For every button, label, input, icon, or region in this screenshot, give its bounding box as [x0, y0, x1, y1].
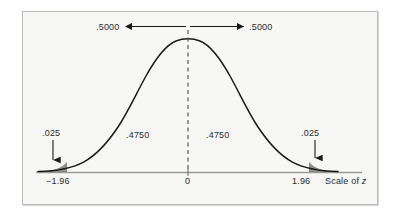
- left-tail-area-label: .025: [42, 128, 60, 138]
- x-tick-label-positive: 1.96: [292, 176, 310, 186]
- left-half-probability-label: .5000: [96, 22, 120, 32]
- right-body-area-label: .4750: [206, 130, 230, 140]
- x-axis-title-prefix: Scale of: [325, 176, 362, 186]
- figure-canvas: .5000 .5000 .4750 .4750 .025 .025 −1.96 …: [0, 0, 400, 216]
- x-axis-title: Scale of z: [325, 176, 367, 186]
- left-body-area-label: .4750: [126, 130, 150, 140]
- x-tick-label-negative: −1.96: [46, 176, 70, 186]
- right-tail-area-label: .025: [301, 128, 319, 138]
- x-tick-label-center: 0: [185, 176, 190, 186]
- x-axis-title-variable: z: [362, 176, 367, 186]
- right-half-probability-label: .5000: [249, 22, 273, 32]
